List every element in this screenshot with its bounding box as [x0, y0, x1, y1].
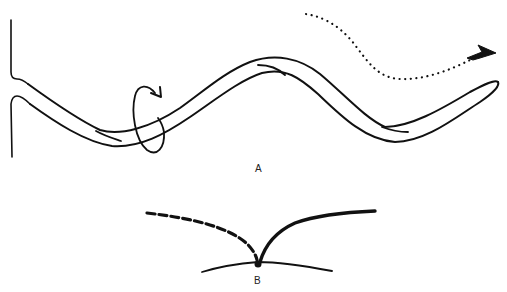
rotation-arrowhead-icon: [151, 87, 161, 97]
surface-upper-line: [11, 20, 28, 84]
worm-upper-edge: [28, 58, 498, 132]
motion-arrowhead-icon: [467, 45, 496, 60]
solid-path: [260, 211, 375, 262]
worm-fold-right: [382, 127, 408, 132]
worm-lower-edge: [30, 71, 498, 146]
panel-label-b: B: [254, 276, 261, 286]
surface-arc: [202, 262, 332, 272]
origin-point: [255, 261, 262, 268]
surface-lower-line: [11, 96, 30, 157]
panel-a: [11, 14, 498, 157]
diagram-canvas: [0, 0, 507, 292]
dashed-path: [147, 213, 257, 260]
panel-label-a: A: [255, 164, 262, 174]
motion-path-dotted: [306, 14, 483, 79]
